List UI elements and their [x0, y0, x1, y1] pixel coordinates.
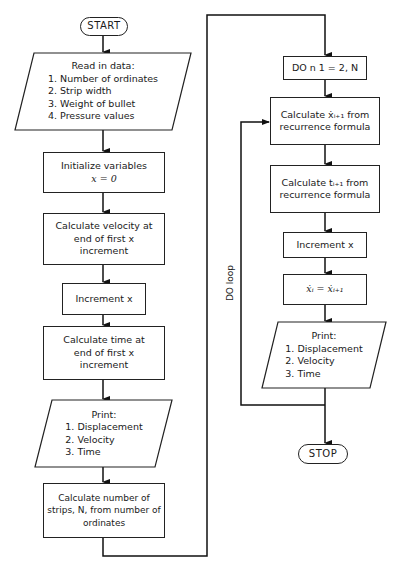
calc-strips-line3: ordinates: [83, 517, 125, 530]
increment-x-label-2: Increment x: [296, 239, 353, 252]
print-1-item: 1. Displacement: [65, 421, 142, 434]
print-output-2: Print: 1. Displacement 2. Velocity 3. Ti…: [272, 324, 376, 386]
increment-x-process-2: Increment x: [283, 232, 367, 258]
start-label: START: [87, 20, 120, 33]
stop-terminal: STOP: [298, 444, 348, 464]
calc-velocity-process: Calculate velocity at end of first x inc…: [43, 213, 165, 265]
stop-label: STOP: [309, 448, 337, 461]
do-statement: DO n 1 = 2, N: [283, 56, 367, 80]
print-2-item: 1. Displacement: [285, 343, 362, 356]
start-terminal: START: [80, 17, 128, 36]
print-2-item: 2. Velocity: [285, 355, 362, 368]
calc-xdot-line1: Calculate ẋᵢ₊₁ from: [281, 109, 370, 122]
print-2-title: Print:: [311, 330, 336, 343]
calc-time-line2: end of first x: [74, 347, 134, 360]
read-data-item: 2. Strip width: [48, 85, 158, 98]
calc-t-process: Calculate tᵢ₊₁ from recurrence formula: [270, 165, 380, 213]
initialize-line1: Initialize variables: [61, 160, 147, 173]
initialize-line2: x = 0: [91, 173, 116, 186]
print-output-1: Print: 1. Displacement 2. Velocity 3. Ti…: [48, 402, 160, 465]
increment-x-process-1: Increment x: [62, 283, 146, 315]
increment-x-label-1: Increment x: [75, 293, 132, 306]
print-1-item: 3. Time: [65, 446, 142, 459]
do-loop-label: DO loop: [225, 263, 235, 303]
read-data-title: Read in data:: [71, 60, 134, 73]
calc-velocity-line1: Calculate velocity at: [55, 220, 152, 233]
read-data-input: Read in data: 1. Number of ordinates 2. …: [30, 55, 176, 128]
read-data-item: 1. Number of ordinates: [48, 73, 158, 86]
calc-time-process: Calculate time at end of first x increme…: [43, 326, 165, 380]
print-1-title: Print:: [91, 409, 116, 422]
calc-velocity-line3: increment: [80, 245, 128, 258]
calc-t-line2: recurrence formula: [280, 189, 371, 202]
assign-xdot-process: ẋᵢ = ẋᵢ₊₁: [283, 274, 367, 305]
calc-velocity-line2: end of first x: [74, 233, 134, 246]
calc-t-line1: Calculate tᵢ₊₁ from: [282, 177, 369, 190]
calc-time-line3: increment: [80, 359, 128, 372]
calc-time-line1: Calculate time at: [63, 334, 144, 347]
do-statement-label: DO n 1 = 2, N: [292, 62, 358, 75]
calc-xdot-line2: recurrence formula: [280, 121, 371, 134]
calc-xdot-process: Calculate ẋᵢ₊₁ from recurrence formula: [270, 97, 380, 145]
calc-strips-process: Calculate number of strips, N, from numb…: [43, 483, 165, 538]
read-data-item: 4. Pressure values: [48, 110, 158, 123]
print-1-item: 2. Velocity: [65, 434, 142, 447]
read-data-item: 3. Weight of bullet: [48, 98, 158, 111]
assign-xdot-label: ẋᵢ = ẋᵢ₊₁: [306, 283, 343, 296]
initialize-process: Initialize variables x = 0: [43, 152, 165, 193]
calc-strips-line2: strips, N, from number of: [47, 504, 160, 517]
calc-strips-line1: Calculate number of: [58, 492, 150, 505]
print-2-item: 3. Time: [285, 368, 362, 381]
